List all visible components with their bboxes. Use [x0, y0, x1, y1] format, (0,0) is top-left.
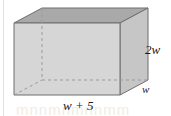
geometry-figure: mnnmnmnnmm 2w w w + 5	[0, 0, 171, 116]
dimension-label-height: 2w	[145, 43, 160, 56]
prism-right-face	[120, 8, 148, 95]
dimension-label-width: w + 5	[63, 99, 93, 112]
prism-front-face	[14, 23, 120, 95]
dimension-label-depth: w	[142, 84, 149, 95]
